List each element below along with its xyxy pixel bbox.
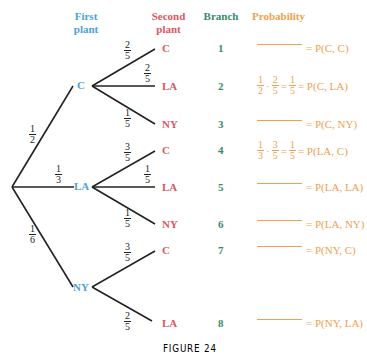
blank-line bbox=[257, 183, 302, 184]
blank-line bbox=[257, 319, 302, 320]
probability-7: = P(NY, C) bbox=[257, 244, 356, 256]
probability-8: = P(NY, LA) bbox=[257, 317, 363, 329]
node-second-la-la: LA bbox=[162, 181, 177, 193]
branch-number-7: 7 bbox=[218, 244, 224, 256]
branch-number-2: 2 bbox=[218, 80, 224, 92]
prob-la-ny: 15 bbox=[124, 208, 131, 229]
header-branch: Branch bbox=[200, 10, 242, 23]
node-second-ny-la: LA bbox=[162, 317, 177, 329]
blank-line bbox=[257, 44, 302, 45]
node-second-c-la: LA bbox=[162, 80, 177, 92]
figure-caption: FIGURE 24 bbox=[163, 342, 217, 355]
node-second-ny-c: C bbox=[162, 244, 170, 256]
blank-line bbox=[257, 120, 302, 121]
prob-c-la: 25 bbox=[144, 63, 151, 84]
node-second-c-c: C bbox=[162, 42, 170, 54]
node-second-la-c: C bbox=[162, 144, 170, 156]
node-first-la: LA bbox=[74, 180, 89, 192]
blank-line bbox=[257, 246, 302, 247]
node-second-c-ny: NY bbox=[162, 118, 178, 130]
branch-number-4: 4 bbox=[218, 144, 224, 156]
probability-6: = P(LA, NY) bbox=[257, 218, 364, 230]
prob-ny-la: 25 bbox=[124, 311, 131, 332]
branch-number-3: 3 bbox=[218, 118, 224, 130]
probability-3: = P(C, NY) bbox=[257, 118, 357, 130]
branch-number-1: 1 bbox=[218, 42, 224, 54]
prob-c-c: 25 bbox=[124, 40, 131, 61]
header-first-plant: First plant bbox=[66, 10, 106, 36]
node-second-la-ny: NY bbox=[162, 218, 178, 230]
prob-ny-c: 35 bbox=[124, 242, 131, 263]
prob-c-ny: 15 bbox=[124, 108, 131, 129]
prob-first-ny: 16 bbox=[29, 224, 36, 245]
node-first-ny: NY bbox=[73, 281, 89, 293]
branch-number-6: 6 bbox=[218, 218, 224, 230]
probability-1: = P(C, C) bbox=[257, 42, 349, 54]
prob-la-la: 15 bbox=[144, 164, 151, 185]
header-second-plant: Second plant bbox=[146, 10, 191, 36]
branch-number-8: 8 bbox=[218, 317, 224, 329]
prob-first-c: 12 bbox=[29, 124, 36, 145]
probability-4: 13· 35= 15 = P(LA, C) bbox=[257, 140, 348, 161]
probability-5: = P(LA, LA) bbox=[257, 181, 363, 193]
probability-2: 12· 25= 15 = P(C, LA) bbox=[257, 75, 348, 96]
blank-line bbox=[257, 220, 302, 221]
branch-number-5: 5 bbox=[218, 181, 224, 193]
node-first-c: C bbox=[77, 79, 85, 91]
header-probability: Probability bbox=[252, 10, 312, 23]
prob-first-la: 13 bbox=[55, 164, 62, 185]
prob-la-c: 35 bbox=[124, 142, 131, 163]
